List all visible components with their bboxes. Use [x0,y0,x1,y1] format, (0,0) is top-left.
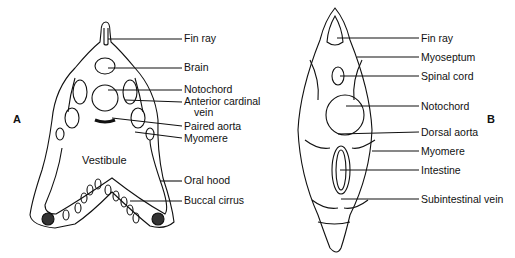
label-b-myomere: Myomere [421,146,465,157]
label-b-notochord: Notochord [421,101,469,112]
label-b-subintestinal-vein: Subintestinal vein [421,194,503,205]
label-a-brain: Brain [184,62,209,73]
label-b-spinal-cord: Spinal cord [421,71,474,82]
panel-a-drawing [30,22,182,228]
label-a-buccal-cirrus: Buccal cirrus [184,195,244,206]
amphioxus-cross-section-figure: A B Fin ray Brain Notochord Anterior car… [0,0,515,258]
label-a-oral-hood: Oral hood [184,175,230,186]
label-a-vein: vein [194,107,213,118]
panel-b-letter: B [487,113,495,125]
label-a-paired-aorta: Paired aorta [184,121,241,132]
label-b-fin-ray: Fin ray [421,33,453,44]
label-a-vestibule: Vestibule [82,155,127,166]
label-b-intestine: Intestine [421,165,461,176]
panel-a-letter: A [13,113,21,125]
label-b-dorsal-aorta: Dorsal aorta [421,127,478,138]
label-b-myoseptum: Myoseptum [421,52,475,63]
label-a-fin-ray: Fin ray [184,33,216,44]
label-a-notochord: Notochord [184,84,232,95]
label-a-myomere: Myomere [184,133,228,144]
panel-b-drawing [298,8,419,252]
